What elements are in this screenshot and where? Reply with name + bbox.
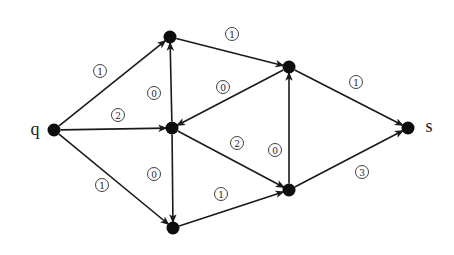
edge-weight-label: 2 <box>112 109 125 122</box>
edge-b-to-c <box>172 134 173 222</box>
weight-value: 0 <box>151 170 157 180</box>
node-q <box>48 124 61 137</box>
edge-weight-label: 0 <box>148 87 161 100</box>
edge-labels-layer: 121001021013 <box>94 28 369 201</box>
edge-b-to-e <box>178 131 284 187</box>
edge-weight-label: 1 <box>96 179 109 192</box>
edge-weight-label: 0 <box>148 168 161 181</box>
edge-weight-label: 0 <box>269 144 282 157</box>
weight-value: 1 <box>97 67 103 77</box>
edge-d-to-b <box>177 70 283 125</box>
edge-b-to-a <box>170 42 172 121</box>
weight-value: 0 <box>151 89 157 99</box>
weight-value: 1 <box>353 78 359 88</box>
node-d <box>283 61 296 74</box>
node-c <box>167 222 180 235</box>
edge-c-to-e <box>179 192 284 226</box>
weight-value: 2 <box>115 111 121 121</box>
weight-value: 0 <box>220 83 226 93</box>
node-a <box>164 31 177 44</box>
node-label-q: q <box>31 119 40 139</box>
edges-layer <box>59 39 403 226</box>
weight-value: 1 <box>229 30 235 40</box>
weight-value: 0 <box>272 146 278 156</box>
edge-e-to-s <box>295 131 403 187</box>
weight-value: 3 <box>359 168 365 178</box>
weight-value: 2 <box>234 139 240 149</box>
node-b <box>166 122 179 135</box>
edge-weight-label: 3 <box>356 166 369 179</box>
edge-weight-label: 1 <box>215 188 228 201</box>
node-label-s: s <box>425 116 432 136</box>
node-e <box>283 184 296 197</box>
edge-d-to-s <box>295 70 403 126</box>
weight-value: 1 <box>218 190 224 200</box>
node-s <box>402 122 415 135</box>
edge-weight-label: 1 <box>350 76 363 89</box>
edge-weight-label: 2 <box>231 137 244 150</box>
nodes-layer: qs <box>31 31 433 235</box>
edge-q-to-b <box>60 128 166 130</box>
edge-weight-label: 1 <box>94 65 107 78</box>
edge-weight-label: 0 <box>217 81 230 94</box>
weight-value: 1 <box>99 181 105 191</box>
edge-weight-label: 1 <box>226 28 239 41</box>
graph-diagram: 121001021013 qs <box>0 0 454 255</box>
edge-a-to-d <box>176 39 283 66</box>
